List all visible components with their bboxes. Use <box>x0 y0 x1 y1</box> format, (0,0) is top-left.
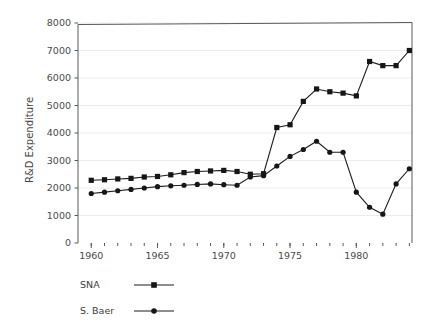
data-point <box>128 176 133 181</box>
data-point <box>367 59 372 64</box>
data-point <box>314 139 319 144</box>
data-point <box>394 181 399 186</box>
legend-marker-square <box>151 282 157 288</box>
data-point <box>354 190 359 195</box>
y-axis-title: R&D Expenditure <box>24 97 35 183</box>
data-point <box>142 174 147 179</box>
data-point <box>314 86 319 91</box>
y-axis-tick-labels-group: 010002000300040005000600070008000 <box>47 17 71 248</box>
data-point <box>248 174 253 179</box>
data-point <box>208 181 213 186</box>
y-tick-label-4000: 4000 <box>47 127 71 138</box>
data-point <box>115 176 120 181</box>
y-tick-label-5000: 5000 <box>47 100 71 111</box>
data-point <box>274 163 279 168</box>
data-point <box>380 212 385 217</box>
legend-label: SNA <box>80 279 100 290</box>
data-point <box>367 205 372 210</box>
data-point <box>301 147 306 152</box>
data-point <box>327 89 332 94</box>
chart-figure: 010002000300040005000600070008000 196019… <box>0 0 435 333</box>
x-tick-label-1970: 1970 <box>212 250 236 261</box>
legend-label: S. Baer <box>80 305 114 316</box>
data-point <box>89 178 94 183</box>
data-point <box>221 182 226 187</box>
data-point <box>155 184 160 189</box>
data-point <box>168 172 173 177</box>
data-point <box>208 168 213 173</box>
legend-marker-circle <box>151 308 157 314</box>
data-point <box>102 190 107 195</box>
data-point <box>142 185 147 190</box>
y-tick-label-2000: 2000 <box>47 182 71 193</box>
data-point <box>287 154 292 159</box>
data-point <box>181 170 186 175</box>
rd-expenditure-line-chart: 010002000300040005000600070008000 196019… <box>0 0 435 333</box>
x-tick-label-1980: 1980 <box>344 250 368 261</box>
data-point <box>380 63 385 68</box>
y-tick-label-8000: 8000 <box>47 17 71 28</box>
data-point <box>354 93 359 98</box>
y-tick-label-0: 0 <box>65 237 71 248</box>
data-point <box>102 177 107 182</box>
data-point <box>221 168 226 173</box>
y-tick-label-6000: 6000 <box>47 72 71 83</box>
data-point <box>155 174 160 179</box>
data-point <box>301 99 306 104</box>
data-point <box>128 187 133 192</box>
data-point <box>234 169 239 174</box>
data-point <box>89 191 94 196</box>
x-tick-label-1975: 1975 <box>278 250 302 261</box>
x-tick-label-1960: 1960 <box>79 250 103 261</box>
y-tick-label-1000: 1000 <box>47 210 71 221</box>
data-point <box>261 173 266 178</box>
data-point <box>287 122 292 127</box>
data-point <box>195 169 200 174</box>
data-point <box>340 150 345 155</box>
data-point <box>327 150 332 155</box>
data-point <box>394 63 399 68</box>
data-point <box>340 91 345 96</box>
x-tick-label-1965: 1965 <box>145 250 169 261</box>
data-point <box>407 48 412 53</box>
data-point <box>181 183 186 188</box>
y-tick-label-7000: 7000 <box>47 45 71 56</box>
y-tick-label-3000: 3000 <box>47 155 71 166</box>
data-point <box>115 188 120 193</box>
data-point <box>407 166 412 171</box>
data-point <box>274 125 279 130</box>
data-point <box>168 183 173 188</box>
data-point <box>195 182 200 187</box>
data-point <box>234 183 239 188</box>
